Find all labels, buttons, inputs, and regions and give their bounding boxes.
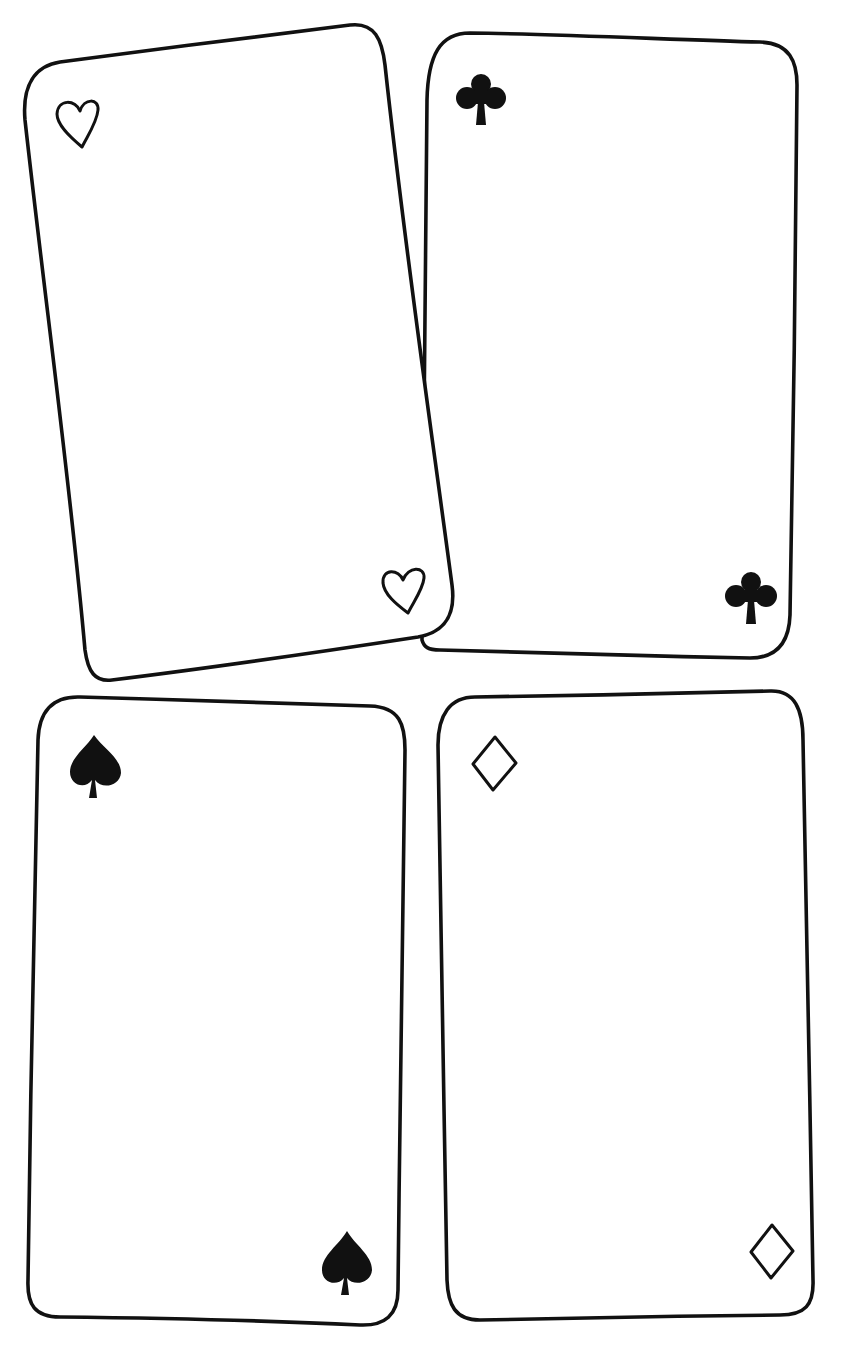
card-spades[interactable] <box>28 697 405 1325</box>
card-hearts[interactable] <box>25 25 453 681</box>
card-spades-outline <box>28 697 405 1325</box>
card-clubs[interactable] <box>422 33 797 658</box>
card-clubs-outline <box>422 33 797 658</box>
cards-drawing <box>0 0 841 1351</box>
card-template-sheet: Four blank hand-drawn playing card templ… <box>0 0 841 1351</box>
card-diamonds[interactable] <box>438 691 813 1320</box>
